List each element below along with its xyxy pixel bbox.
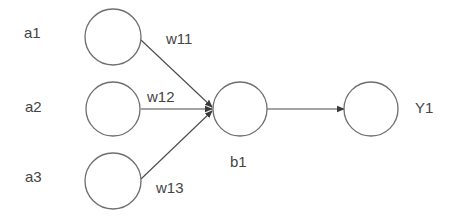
label-a3: a3 xyxy=(25,168,42,185)
label-w13: w13 xyxy=(155,179,184,196)
label-w11: w11 xyxy=(165,30,192,47)
node-a1 xyxy=(85,9,141,65)
node-b1 xyxy=(213,82,267,136)
label-y1: Y1 xyxy=(415,99,433,116)
label-a2: a2 xyxy=(25,98,42,115)
node-y1 xyxy=(344,82,398,136)
node-a2 xyxy=(86,82,140,136)
nodes xyxy=(85,9,398,209)
label-b1: b1 xyxy=(230,153,247,170)
neural-network-diagram: a1 a2 a3 b1 Y1 w11 w12 w13 xyxy=(0,0,464,219)
edge-a3-b1 xyxy=(141,111,212,179)
node-a3 xyxy=(85,153,141,209)
label-a1: a1 xyxy=(24,24,41,41)
weight-labels: w11 w12 w13 xyxy=(146,30,192,196)
label-w12: w12 xyxy=(146,88,175,105)
